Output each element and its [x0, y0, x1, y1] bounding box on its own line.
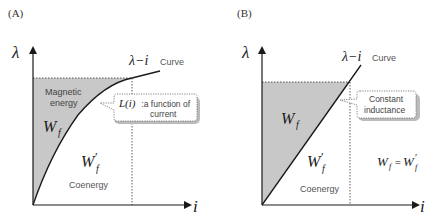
svg-text:W: W	[403, 154, 415, 169]
panel-b-label: (B)	[237, 7, 252, 20]
y-axis-label: λ	[241, 43, 249, 62]
figure-canvas: (A) λ i λ−i Curve Magnetic energy W f W …	[0, 0, 434, 224]
energy-equality-equation: W f = W ′ f	[377, 152, 419, 172]
svg-text:f: f	[322, 163, 326, 174]
magnetic-energy-line1: Magnetic	[45, 87, 82, 97]
curve-label-text: Curve	[160, 57, 184, 67]
curve-label-text: Curve	[372, 53, 396, 63]
svg-text:W: W	[43, 118, 58, 135]
curve-label-symbol: λ−i	[128, 53, 149, 68]
y-axis-label: λ	[11, 43, 19, 62]
inductance-callout: L(i) :a function of current	[100, 94, 200, 124]
panel-a-label: (A)	[8, 7, 24, 20]
panel-a: (A) λ i λ−i Curve Magnetic energy W f W …	[8, 7, 200, 216]
svg-text:L(i): L(i)	[118, 97, 136, 110]
coenergy-label: Coenergy	[300, 184, 340, 194]
svg-text:′: ′	[95, 150, 98, 164]
svg-text::a function of: :a function of	[139, 99, 191, 109]
svg-text:f: f	[415, 163, 419, 172]
x-axis-label: i	[193, 197, 198, 216]
curve-label-symbol: λ−i	[341, 49, 362, 64]
x-axis-label: i	[420, 197, 425, 216]
svg-text:′: ′	[415, 152, 417, 163]
svg-text:current: current	[150, 109, 177, 119]
svg-text:Constant: Constant	[369, 94, 404, 104]
svg-text:W: W	[81, 153, 96, 170]
inductance-callout: Constant inductance	[340, 91, 420, 121]
coenergy-symbol: W ′ f	[81, 150, 100, 174]
svg-text:W: W	[307, 153, 322, 170]
magnetic-energy-line2: energy	[50, 98, 78, 108]
coenergy-symbol: W ′ f	[307, 150, 326, 174]
svg-text:W: W	[281, 110, 296, 127]
svg-text:inductance: inductance	[364, 105, 405, 115]
svg-text:=: =	[392, 156, 404, 168]
svg-text:f: f	[96, 163, 100, 174]
coenergy-label: Coenergy	[69, 180, 109, 190]
panel-b: (B) λ i λ−i Curve W f W ′ f Coenergy	[237, 7, 425, 216]
svg-text:W: W	[377, 154, 389, 169]
svg-text:′: ′	[321, 150, 324, 164]
